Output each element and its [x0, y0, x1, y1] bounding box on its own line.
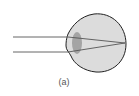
figure-caption: (a) [52, 77, 76, 87]
